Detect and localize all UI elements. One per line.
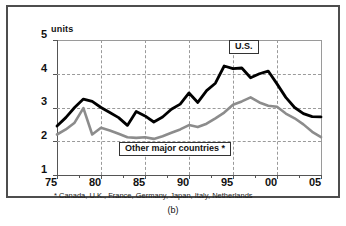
y-axis-tick-label-5: 5	[33, 28, 47, 40]
x-axis-tick-label-05: 05	[302, 176, 328, 188]
x-axis-tick-label-95: 95	[214, 176, 240, 188]
x-axis-tick-label-80: 80	[82, 176, 108, 188]
x-axis-tick-label-75: 75	[38, 176, 64, 188]
y-axis-tick-label-2: 2	[33, 129, 47, 141]
x-tickmark-87	[167, 175, 168, 178]
chart-frame: units	[6, 5, 340, 198]
x-tickmark-02	[299, 175, 300, 178]
x-axis-tick-label-00: 00	[258, 176, 284, 188]
x-axis-tick-label-85: 85	[126, 176, 152, 188]
plot-right-border	[321, 40, 322, 175]
label-us: U.S.	[229, 40, 259, 54]
figure-root: units	[0, 0, 346, 226]
x-tickmark-77	[79, 175, 80, 178]
y-axis-tick-label-1: 1	[33, 163, 47, 175]
x-tickmark-82	[123, 175, 124, 178]
y-axis-units-label: units	[51, 24, 74, 34]
x-axis-tick-label-90: 90	[170, 176, 196, 188]
label-other-major-countries: Other major countries *	[119, 142, 231, 156]
x-tickmark-97	[255, 175, 256, 178]
figure-caption: (b)	[0, 205, 346, 215]
x-tickmark-92	[211, 175, 212, 178]
y-axis-tick-label-4: 4	[33, 62, 47, 74]
footnote: * Canada, U.K., France, Germany, Japan, …	[54, 191, 253, 200]
y-axis-tick-label-3: 3	[33, 95, 47, 107]
line-us	[57, 66, 321, 126]
